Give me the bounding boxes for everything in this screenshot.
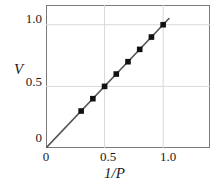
data-point	[90, 96, 96, 102]
data-point	[125, 59, 131, 65]
data-point	[102, 84, 108, 90]
y-axis-tick-1.0: 1.0	[8, 12, 42, 25]
plot-area	[46, 5, 210, 148]
data-point	[137, 47, 143, 53]
x-axis-title: 1/P	[104, 166, 125, 181]
data-point	[78, 108, 84, 114]
data-point	[113, 71, 119, 77]
data-point	[149, 34, 155, 40]
y-axis-title: V	[14, 62, 23, 77]
chart-screenshot: 1.0 0.5 0 0 0.5 1.0 V 1/P	[0, 0, 219, 183]
y-axis-tick-0: 0	[8, 131, 42, 144]
x-axis-tick-1.0: 1.0	[156, 150, 180, 163]
x-axis-tick-0.5: 0.5	[96, 150, 120, 163]
data-point	[160, 22, 166, 28]
x-axis-tick-0: 0	[34, 150, 58, 163]
